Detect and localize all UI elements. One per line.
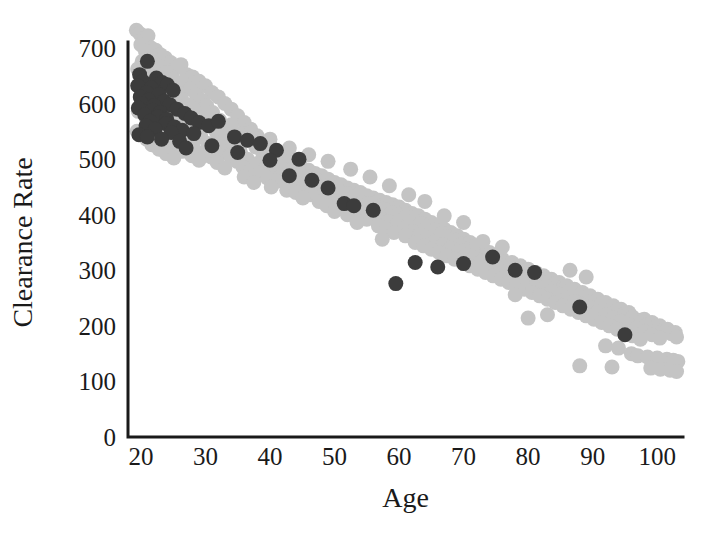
x-tick-label: 60	[387, 443, 412, 470]
data-point	[540, 307, 555, 322]
data-point	[246, 175, 261, 190]
data-point	[633, 332, 648, 347]
data-point	[346, 198, 361, 213]
data-point	[321, 154, 336, 169]
scatter-plot-figure: 2030405060708090100 01002003004005006007…	[0, 0, 712, 549]
data-point	[437, 208, 452, 223]
data-point	[140, 54, 155, 69]
data-point	[382, 178, 397, 193]
data-point	[563, 263, 578, 278]
data-point	[295, 191, 310, 206]
data-point	[240, 133, 255, 148]
x-tick-label: 40	[258, 443, 283, 470]
x-tick-label: 20	[128, 443, 153, 470]
data-point	[292, 152, 307, 167]
data-point	[598, 338, 613, 353]
data-point	[401, 187, 416, 202]
data-point	[485, 249, 500, 264]
data-point	[669, 329, 684, 344]
y-axis-title: Clearance Rate	[7, 157, 38, 327]
data-point	[350, 215, 365, 230]
y-tick-label: 400	[79, 202, 117, 229]
data-point	[475, 234, 490, 249]
data-point	[204, 138, 219, 153]
data-point	[253, 136, 268, 151]
y-tick-label: 600	[79, 91, 117, 118]
x-axis-tick-labels: 2030405060708090100	[128, 443, 676, 470]
data-point	[363, 169, 378, 184]
data-point	[366, 203, 381, 218]
x-tick-label: 80	[516, 443, 541, 470]
data-point	[572, 358, 587, 373]
data-point	[282, 168, 297, 183]
data-point	[264, 179, 279, 194]
data-point	[527, 265, 542, 280]
x-axis-title: Age	[382, 482, 429, 513]
data-point	[669, 364, 684, 379]
data-point	[186, 126, 201, 141]
data-point	[227, 129, 242, 144]
data-point	[611, 341, 626, 356]
data-point	[321, 181, 336, 196]
y-tick-label: 700	[79, 35, 117, 62]
data-point	[572, 299, 587, 314]
data-point	[456, 256, 471, 271]
data-point	[430, 259, 445, 274]
y-tick-label: 100	[79, 368, 117, 395]
y-tick-label: 500	[79, 146, 117, 173]
data-point	[375, 232, 390, 247]
plot-canvas: 2030405060708090100 01002003004005006007…	[0, 0, 712, 549]
data-point	[508, 263, 523, 278]
x-tick-label: 30	[193, 443, 218, 470]
data-point	[211, 114, 226, 129]
y-tick-label: 200	[79, 313, 117, 340]
data-point	[217, 161, 232, 176]
y-tick-label: 300	[79, 257, 117, 284]
data-point	[417, 194, 432, 209]
data-point	[262, 153, 277, 168]
data-point	[230, 145, 245, 160]
data-point	[617, 327, 632, 342]
x-tick-label: 100	[638, 443, 676, 470]
data-point	[191, 153, 206, 168]
data-point	[456, 215, 471, 230]
data-point	[579, 269, 594, 284]
x-tick-label: 90	[580, 443, 605, 470]
data-point	[605, 359, 620, 374]
data-point	[166, 151, 181, 166]
y-tick-label: 0	[104, 424, 117, 451]
x-tick-label: 50	[322, 443, 347, 470]
data-point	[508, 287, 523, 302]
data-point	[343, 162, 358, 177]
data-point	[388, 276, 403, 291]
data-point	[652, 331, 667, 346]
data-point	[408, 255, 423, 270]
x-tick-label: 70	[451, 443, 476, 470]
data-point	[154, 132, 169, 147]
data-point	[179, 141, 194, 156]
data-point	[521, 311, 536, 326]
data-point	[140, 129, 155, 144]
data-point	[304, 173, 319, 188]
